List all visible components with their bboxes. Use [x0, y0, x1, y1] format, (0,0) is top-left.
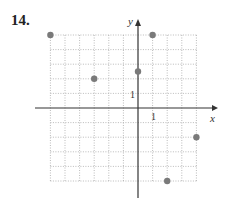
coordinate-plane: x y 1 1 [0, 0, 227, 199]
plotted-point [149, 32, 155, 38]
plotted-point [193, 134, 199, 140]
plotted-point [91, 76, 97, 82]
y-axis-label: y [127, 15, 133, 27]
x-axis-label: x [209, 112, 215, 124]
plotted-point [135, 68, 141, 74]
y-tick-label: 1 [130, 89, 135, 100]
plotted-point [164, 178, 170, 184]
x-tick-label: 1 [151, 111, 156, 122]
y-axis-arrow-icon [135, 19, 141, 26]
x-axis-arrow-icon [212, 105, 218, 111]
plotted-point [47, 32, 53, 38]
